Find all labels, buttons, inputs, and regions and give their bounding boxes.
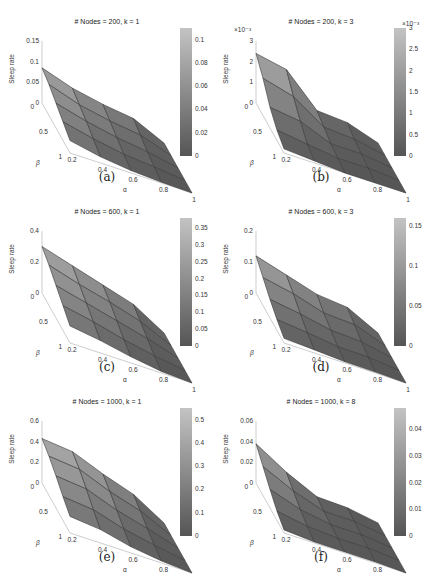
plot-title: # Nodes = 1000, k = 1 — [73, 398, 142, 405]
alpha-tick-label: 0.2 — [281, 536, 290, 543]
subplot-a: # Nodes = 200, k = 100.050.10.15Sleep ra… — [0, 0, 214, 192]
beta-tick-label: 0.5 — [39, 508, 48, 515]
colorbar-tick-label: 0 — [195, 532, 199, 539]
z-tick-label: 0 — [249, 99, 253, 106]
z-tick-label: 3 — [249, 37, 253, 44]
beta-tick-label: 0 — [244, 293, 248, 300]
z-tick-label: 0.02 — [240, 458, 253, 465]
colorbar-tick-label: 0.25 — [195, 258, 208, 265]
subplot-d: # Nodes = 600, k = 300.10.2Sleep rate00.… — [214, 190, 428, 382]
z-multiplier: ×10⁻³ — [234, 26, 252, 33]
colorbar-tick-label: 2 — [409, 67, 413, 74]
beta-tick-label: 0.5 — [253, 508, 262, 515]
beta-tick-label: 0 — [244, 483, 248, 490]
colorbar-tick-label: 0.08 — [195, 59, 208, 66]
caption-d: (d) — [301, 360, 341, 374]
beta-tick-label: 0.5 — [253, 318, 262, 325]
colorbar-tick-label: 0.35 — [195, 224, 208, 231]
surface-plot-c: # Nodes = 600, k = 100.20.4Sleep rate00.… — [0, 190, 214, 382]
alpha-tick-label: 0.6 — [342, 176, 351, 183]
colorbar-tick-label: 0.2 — [195, 485, 204, 492]
colorbar-tick-label: 0.5 — [195, 416, 204, 423]
beta-axis-label: β — [249, 539, 254, 547]
z-tick-label: 0.2 — [244, 227, 253, 234]
colorbar-tick-label: 0 — [195, 152, 199, 159]
beta-tick-label: 0 — [30, 103, 34, 110]
z-tick-label: 0 — [35, 479, 39, 486]
alpha-tick-label: 0.6 — [342, 556, 351, 563]
alpha-tick-label: 0.2 — [281, 346, 290, 353]
beta-tick-label: 0 — [30, 293, 34, 300]
colorbar — [394, 408, 406, 536]
beta-axis-label: β — [35, 349, 40, 357]
z-tick-label: 0.2 — [30, 258, 39, 265]
z-tick-label: 0.15 — [26, 37, 39, 44]
caption-f: (f) — [301, 550, 341, 564]
z-tick-label: 2 — [249, 58, 253, 65]
beta-axis-label: β — [35, 539, 40, 547]
beta-tick-label: 0 — [30, 483, 34, 490]
alpha-axis-label: α — [123, 566, 127, 573]
alpha-tick-label: 0.2 — [281, 156, 290, 163]
surface-plot-d: # Nodes = 600, k = 300.10.2Sleep rate00.… — [214, 190, 428, 382]
surface-plot-b: # Nodes = 200, k = 30123×10⁻³Sleep rate0… — [214, 0, 428, 192]
beta-tick-label: 1 — [272, 533, 276, 540]
plot-title: # Nodes = 600, k = 3 — [289, 208, 354, 215]
colorbar-tick-label: 0.02 — [195, 129, 208, 136]
caption-a: (a) — [87, 170, 127, 184]
colorbar-tick-label: 0 — [409, 342, 413, 349]
colorbar-tick-label: 0.1 — [409, 262, 418, 269]
plot-title: # Nodes = 1000, k = 8 — [287, 398, 356, 405]
alpha-tick-label: 0.6 — [342, 366, 351, 373]
colorbar-tick-label: 0.1 — [195, 509, 204, 516]
z-tick-label: 0.06 — [240, 417, 253, 424]
alpha-tick-label: 0.2 — [67, 156, 76, 163]
alpha-axis-label: α — [337, 566, 341, 573]
z-tick-label: 0 — [35, 99, 39, 106]
beta-tick-label: 1 — [272, 343, 276, 350]
colorbar-tick-label: 0.03 — [409, 452, 422, 459]
z-axis-label: Sleep rate — [8, 244, 16, 274]
z-axis-label: Sleep rate — [8, 434, 16, 464]
beta-tick-label: 0.5 — [39, 128, 48, 135]
colorbar-tick-label: 0.1 — [195, 36, 204, 43]
z-tick-label: 0.6 — [30, 417, 39, 424]
colorbar-tick-label: 0.15 — [195, 291, 208, 298]
colorbar-tick-label: 0.04 — [195, 105, 208, 112]
z-tick-label: 0.04 — [240, 438, 253, 445]
beta-axis-label: β — [249, 349, 254, 357]
colorbar-tick-label: 0 — [195, 342, 199, 349]
colorbar — [394, 28, 406, 156]
colorbar-tick-label: 0.05 — [195, 325, 208, 332]
z-axis-label: Sleep rate — [222, 54, 230, 84]
beta-tick-label: 0.5 — [253, 128, 262, 135]
colorbar-tick-label: 0.3 — [195, 462, 204, 469]
colorbar — [180, 408, 192, 536]
beta-tick-label: 1 — [58, 153, 62, 160]
colorbar-tick-label: 0.3 — [195, 241, 204, 248]
colorbar-tick-label: 0.1 — [195, 308, 204, 315]
colorbar — [180, 28, 192, 156]
z-tick-label: 0.1 — [244, 258, 253, 265]
surface-plot-a: # Nodes = 200, k = 100.050.10.15Sleep ra… — [0, 0, 214, 192]
z-tick-label: 0.05 — [26, 78, 39, 85]
beta-tick-label: 0 — [244, 103, 248, 110]
z-tick-label: 1 — [249, 78, 253, 85]
colorbar-tick-label: 0 — [409, 152, 413, 159]
colorbar-tick-label: 0.02 — [409, 479, 422, 486]
colorbar-tick-label: 0 — [409, 532, 413, 539]
beta-axis-label: β — [35, 159, 40, 167]
subplot-e: # Nodes = 1000, k = 100.20.40.6Sleep rat… — [0, 380, 214, 572]
beta-tick-label: 0.5 — [39, 318, 48, 325]
z-tick-label: 0 — [249, 289, 253, 296]
alpha-tick-label: 0.6 — [128, 366, 137, 373]
surface-plot-f: # Nodes = 1000, k = 800.020.040.06Sleep … — [214, 380, 428, 572]
caption-e: (e) — [87, 550, 127, 564]
subplot-f: # Nodes = 1000, k = 800.020.040.06Sleep … — [214, 380, 428, 572]
alpha-tick-label: 0.2 — [67, 346, 76, 353]
beta-tick-label: 1 — [272, 153, 276, 160]
z-axis-label: Sleep rate — [8, 54, 16, 84]
z-tick-label: 0 — [35, 289, 39, 296]
beta-tick-label: 1 — [58, 533, 62, 540]
plot-title: # Nodes = 200, k = 3 — [289, 18, 354, 25]
